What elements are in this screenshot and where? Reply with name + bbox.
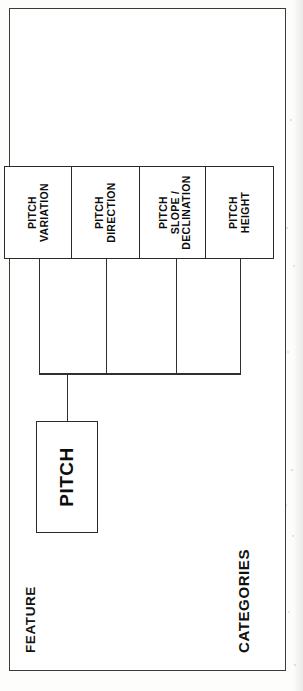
node-pitch-slope-declination: PITCH SLOPE / DECLINATION — [139, 166, 212, 259]
node-pitch-height-line2: HEIGHT — [240, 192, 252, 233]
scanned-page: FEATURE CATEGORIES PITCH PITCH VARIATION — [0, 0, 303, 691]
node-pitch-variation-line2: VARIATION — [39, 183, 51, 242]
node-pitch-variation-line1: PITCH — [27, 183, 39, 242]
node-pitch-height-label: PITCH HEIGHT — [228, 192, 252, 233]
node-pitch-slope-declination-label: PITCH SLOPE / DECLINATION — [158, 175, 193, 249]
node-pitch-variation: PITCH VARIATION — [4, 166, 73, 259]
node-pitch-direction-line2: DIRECTION — [106, 182, 118, 242]
node-pitch-root-label: PITCH — [56, 447, 77, 507]
node-pitch-direction-label: PITCH DIRECTION — [94, 182, 118, 242]
node-pitch-height-line1: PITCH — [228, 192, 240, 233]
connector-branch-pitch-height — [240, 258, 242, 375]
column-heading-categories: CATEGORIES — [235, 549, 252, 653]
scan-edge-shading — [293, 0, 303, 691]
node-pitch-root: PITCH — [36, 421, 98, 533]
figure-frame-border: FEATURE CATEGORIES PITCH PITCH VARIATION — [9, 8, 286, 671]
node-pitch-direction-line1: PITCH — [94, 182, 106, 242]
hierarchy-diagram: FEATURE CATEGORIES PITCH PITCH VARIATION — [9, 8, 286, 671]
node-pitch-variation-label: PITCH VARIATION — [27, 183, 51, 242]
connector-branch-pitch-slope-declination — [176, 258, 178, 375]
connector-branch-pitch-direction — [106, 258, 108, 375]
node-pitch-direction: PITCH DIRECTION — [71, 166, 140, 259]
connector-vertical-spine — [39, 374, 240, 376]
connector-branch-pitch-variation — [39, 258, 41, 375]
column-heading-feature: FEATURE — [23, 586, 38, 653]
node-pitch-slope-declination-line1: PITCH — [158, 175, 170, 249]
node-pitch-slope-declination-line3: DECLINATION — [181, 175, 193, 249]
connector-root-stub — [67, 374, 69, 421]
node-pitch-height: PITCH HEIGHT — [205, 166, 274, 259]
